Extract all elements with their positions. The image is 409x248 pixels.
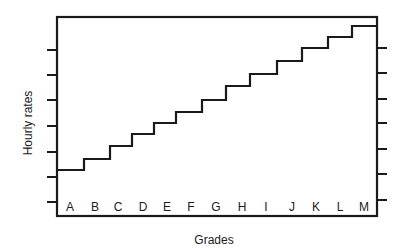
y-axis-label: Hourly rates [21, 91, 35, 156]
x-tick-label: B [91, 200, 99, 214]
x-tick-label: G [211, 200, 220, 214]
x-tick-label: E [163, 200, 171, 214]
x-tick-label: K [312, 200, 320, 214]
x-tick-label: I [264, 200, 267, 214]
step-chart [0, 0, 409, 248]
x-tick-label: H [238, 200, 247, 214]
x-tick-label: L [337, 200, 344, 214]
x-axis-label: Grades [194, 233, 233, 247]
hourly-rate-step-line [57, 26, 377, 170]
x-tick-label: A [66, 200, 74, 214]
x-tick-label: D [139, 200, 148, 214]
x-tick-label: M [359, 200, 369, 214]
x-tick-label: C [114, 200, 123, 214]
x-tick-label: F [187, 200, 194, 214]
axis-ticks [47, 48, 387, 202]
x-tick-label: J [289, 200, 295, 214]
